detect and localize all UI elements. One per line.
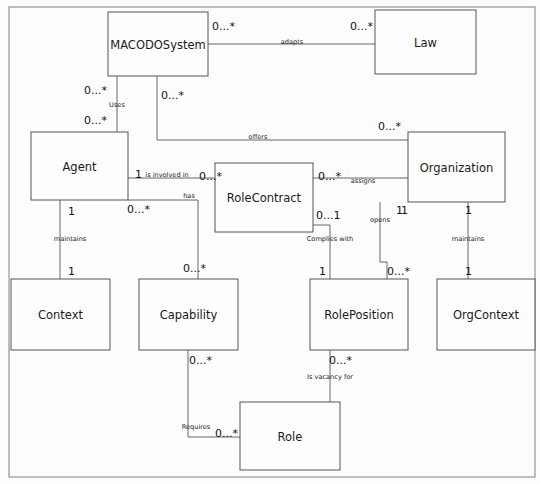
multiplicity-complies-dst: 1 — [319, 265, 326, 278]
association-label-is-involved-in: is involved in — [145, 171, 188, 179]
multiplicity-adapts-dst: 0...* — [350, 20, 373, 33]
association-label-opens: opens — [370, 216, 390, 224]
association-labels-layer: adaptsUsesoffersis involved inassignshas… — [54, 38, 485, 431]
uml-class-diagram: MACODOSystemLawAgentRoleContractOrganiza… — [0, 0, 540, 484]
association-label-complies-with: Complies with — [307, 235, 354, 243]
multiplicity-maint1-dst: 1 — [68, 265, 75, 278]
multiplicity-assigns-src: 0...* — [318, 170, 341, 183]
multiplicity-opens-dst: 0...* — [387, 265, 410, 278]
multiplicity-offers-dst: 0...* — [378, 120, 401, 133]
class-box-orgcontext[interactable]: OrgContext — [437, 279, 535, 350]
class-box-roleposition[interactable]: RolePosition — [310, 279, 408, 350]
class-name-agent: Agent — [62, 160, 97, 174]
multiplicity-involved-src: 1 — [135, 168, 142, 181]
multiplicity-maint2-dst: 1 — [465, 265, 472, 278]
class-box-capability[interactable]: Capability — [139, 279, 238, 350]
association-label-adapts: adapts — [281, 38, 304, 46]
diagram-canvas: MACODOSystemLawAgentRoleContractOrganiza… — [0, 0, 540, 484]
multiplicity-uses-dst: 0...* — [84, 114, 107, 127]
multiplicity-complies-src: 0...1 — [316, 209, 341, 222]
class-name-rolecontract: RoleContract — [227, 191, 302, 205]
multiplicity-has-src: 0...* — [127, 203, 150, 216]
association-line-offers — [157, 76, 408, 140]
class-name-capability: Capability — [160, 308, 218, 322]
multiplicity-adapts-src: 0...* — [212, 20, 235, 33]
association-label-has: has — [183, 192, 195, 200]
multiplicity-requires-src: 0...* — [189, 354, 212, 367]
multiplicity-involved-dst: 0...* — [199, 170, 222, 183]
class-box-role[interactable]: Role — [240, 402, 340, 470]
class-name-roleposition: RolePosition — [324, 308, 394, 322]
association-label-requires: Requires — [182, 423, 211, 431]
class-name-macodosystem: MACODOSystem — [110, 38, 205, 52]
class-box-agent[interactable]: Agent — [31, 132, 128, 200]
class-box-rolecontract[interactable]: RoleContract — [215, 163, 313, 232]
class-name-orgcontext: OrgContext — [453, 308, 519, 322]
class-name-law: Law — [414, 36, 437, 50]
multiplicity-requires-dst: 0...* — [215, 427, 238, 440]
multiplicity-opens-src: 1 — [396, 204, 403, 217]
association-line-opens — [380, 202, 387, 279]
multiplicity-uses-src: 0...* — [84, 84, 107, 97]
association-label-maintains-2: maintains — [452, 235, 485, 243]
association-label-is-vacancy-for: Is vacancy for — [307, 373, 353, 381]
multiplicity-maint1-src: 1 — [68, 205, 75, 218]
association-label-uses: Uses — [109, 101, 125, 109]
class-name-organization: Organization — [420, 161, 494, 175]
class-box-organization[interactable]: Organization — [408, 132, 505, 202]
multiplicity-vacancy-src: 0...* — [329, 354, 352, 367]
association-label-assigns: assigns — [351, 177, 376, 185]
multiplicity-maint2-src: 1 — [465, 204, 472, 217]
multiplicity-has-dst: 0...* — [183, 262, 206, 275]
association-label-offers: offers — [249, 133, 268, 141]
class-name-role: Role — [278, 430, 303, 444]
class-box-law[interactable]: Law — [375, 10, 476, 74]
association-label-maintains-1: maintains — [54, 235, 87, 243]
multiplicity-offers-src: 0...* — [161, 89, 184, 102]
class-box-context[interactable]: Context — [11, 279, 110, 350]
class-name-context: Context — [38, 308, 84, 322]
class-box-macodosystem[interactable]: MACODOSystem — [108, 12, 208, 76]
